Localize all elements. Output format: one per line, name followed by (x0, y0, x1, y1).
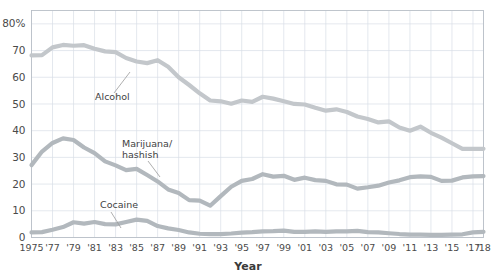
x-axis-tick-label: '83 (108, 242, 123, 253)
x-axis-tick-label: '91 (192, 242, 207, 253)
x-axis-tick-label: '18 (476, 242, 491, 253)
x-axis-tick-labels: 1975'77'79'81'83'85'87'89'91'93'95'97'99… (19, 242, 490, 253)
chart-container: 01020304050607080% 1975'77'79'81'83'85'8… (0, 0, 496, 274)
x-axis-tick-label: '09 (382, 242, 397, 253)
x-axis-tick-label: '89 (171, 242, 186, 253)
y-axis-tick-label: 40 (12, 124, 25, 136)
x-axis-tick-label: '85 (129, 242, 144, 253)
series-annotations: AlcoholMarijuana/hashishCocaine (95, 72, 173, 228)
annotation-label-alcohol: Alcohol (95, 91, 130, 102)
x-axis-tick-label: '13 (424, 242, 439, 253)
y-axis-tick-labels: 01020304050607080% (2, 17, 25, 243)
series-line-marijuana-hashish (32, 138, 484, 205)
x-axis-tick-label: '03 (318, 242, 333, 253)
x-axis-tick-label: '15 (445, 242, 460, 253)
x-axis-tick-label: '93 (213, 242, 228, 253)
y-axis-tick-label: 50 (12, 98, 25, 110)
y-axis-tick-label: 30 (12, 151, 25, 163)
y-axis-tick-label: 60 (12, 71, 25, 83)
x-axis-tick-label: '07 (361, 242, 376, 253)
y-axis-tick-label: 10 (12, 204, 25, 216)
annotation-label-marijuana: Marijuana/ (122, 138, 173, 149)
x-axis-tick-label: '81 (87, 242, 102, 253)
y-axis-tick-label: 20 (12, 178, 25, 190)
x-axis-tick-label: '99 (276, 242, 291, 253)
x-axis-title: Year (233, 260, 262, 273)
x-axis-tick-label: '95 (234, 242, 249, 253)
x-axis-tick-label: '97 (255, 242, 270, 253)
annotation-label-hashish: hashish (122, 149, 158, 160)
y-axis-tick-label: 80% (2, 17, 25, 29)
line-chart: 01020304050607080% 1975'77'79'81'83'85'8… (0, 0, 496, 274)
x-axis-tick-label: 1975 (19, 242, 43, 253)
series-line-cocaine (32, 220, 484, 235)
y-axis-tick-label: 70 (12, 44, 25, 56)
annotation-leader-line (114, 72, 130, 93)
x-axis-tick-label: '11 (403, 242, 418, 253)
x-axis-tick-label: '87 (150, 242, 165, 253)
x-axis-tick-label: '79 (66, 242, 81, 253)
x-axis-tick-label: '77 (45, 242, 60, 253)
x-axis-tick-label: '05 (339, 242, 354, 253)
annotation-label-cocaine: Cocaine (100, 199, 138, 210)
x-axis-tick-label: '01 (297, 242, 312, 253)
